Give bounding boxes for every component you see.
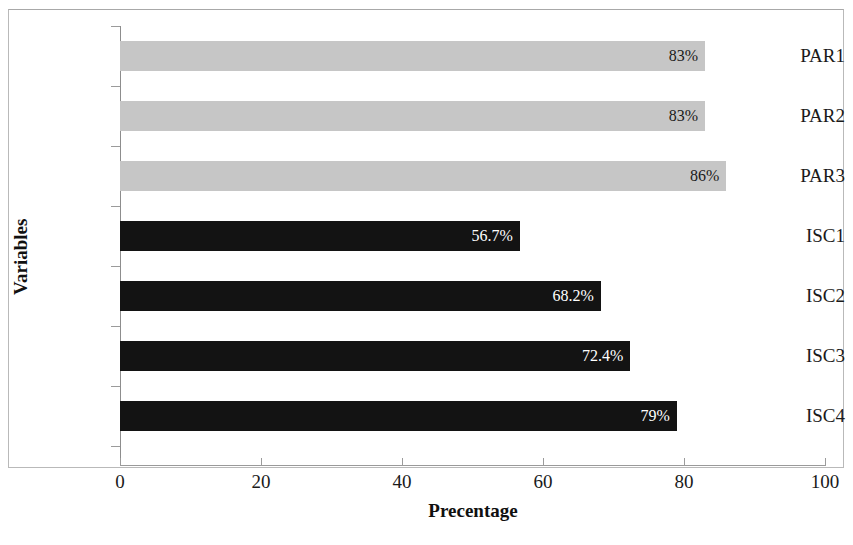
y-axis-tick: [111, 86, 120, 87]
category-label-isc3: ISC3: [741, 345, 853, 367]
bar-par3: 86%: [120, 161, 726, 191]
x-axis-tick: [825, 458, 826, 466]
x-axis-tick-label: 100: [811, 471, 840, 493]
bar-value-label: 56.7%: [471, 228, 512, 244]
bar-value-label: 72.4%: [582, 348, 623, 364]
x-axis-tick-label: 80: [675, 471, 694, 493]
x-axis-tick-label: 20: [252, 471, 271, 493]
bar-value-label: 83%: [669, 48, 698, 64]
x-axis-tick-label: 40: [393, 471, 412, 493]
y-axis-tick: [111, 446, 120, 447]
bar-isc2: 68.2%: [120, 281, 601, 311]
y-axis-tick: [111, 386, 120, 387]
category-label-isc2: ISC2: [741, 285, 853, 307]
y-axis-tick: [111, 266, 120, 267]
bar-isc1: 56.7%: [120, 221, 520, 251]
x-axis-tick: [543, 458, 544, 466]
x-axis-tick: [120, 458, 121, 466]
bar-value-label: 79%: [641, 408, 670, 424]
x-axis-tick-label: 60: [534, 471, 553, 493]
category-label-par3: PAR3: [741, 165, 853, 187]
category-label-isc4: ISC4: [741, 405, 853, 427]
bar-value-label: 86%: [690, 168, 719, 184]
x-axis-tick: [684, 458, 685, 466]
x-axis-tick-label: 0: [115, 471, 125, 493]
category-label-par2: PAR2: [741, 105, 853, 127]
bar-par1: 83%: [120, 41, 705, 71]
category-label-isc1: ISC1: [741, 225, 853, 247]
x-axis-tick: [261, 458, 262, 466]
bar-chart-figure: 83%83%86%56.7%68.2%72.4%79% PAR1PAR2PAR3…: [0, 0, 853, 545]
y-axis-tick: [111, 206, 120, 207]
x-axis-line: [120, 465, 826, 466]
bar-isc4: 79%: [120, 401, 677, 431]
y-axis-tick: [111, 146, 120, 147]
bar-value-label: 83%: [669, 108, 698, 124]
x-axis-tick: [402, 458, 403, 466]
y-axis-title: Variables: [10, 219, 32, 295]
category-label-par1: PAR1: [741, 45, 853, 67]
bar-isc3: 72.4%: [120, 341, 630, 371]
bar-par2: 83%: [120, 101, 705, 131]
y-axis-tick: [111, 26, 120, 27]
bar-value-label: 68.2%: [552, 288, 593, 304]
x-axis-title: Precentage: [120, 500, 826, 522]
y-axis-tick: [111, 326, 120, 327]
